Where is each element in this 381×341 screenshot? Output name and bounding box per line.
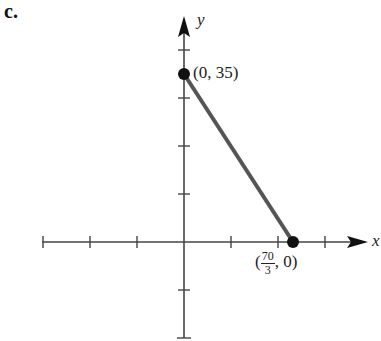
fraction: 703: [261, 250, 275, 277]
y-axis-label: y: [197, 10, 205, 30]
line-segment: [184, 74, 293, 242]
point-x-intercept: [287, 236, 299, 248]
point-a-label: (0, 35): [193, 63, 238, 83]
point-b-label: (703, 0): [255, 250, 297, 277]
x-axis-label: x: [372, 231, 380, 251]
coordinate-plot: [0, 0, 381, 341]
point-y-intercept: [178, 68, 190, 80]
